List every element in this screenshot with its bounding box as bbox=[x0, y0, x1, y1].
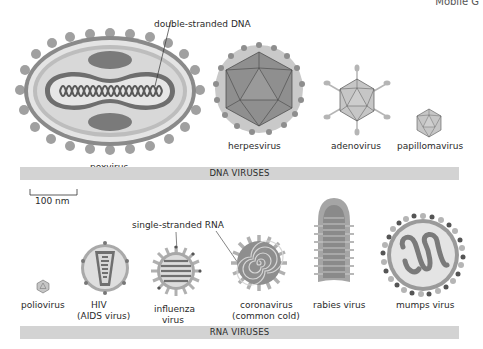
label-mumps: mumps virus bbox=[396, 300, 454, 311]
influenza-illustration bbox=[150, 245, 202, 297]
label-influenza: influenza bbox=[154, 304, 195, 315]
hiv-illustration bbox=[80, 241, 130, 295]
rna-viruses-band: RNA VIRUSES bbox=[20, 326, 459, 339]
label-influenza-subtitle: virus bbox=[162, 315, 184, 326]
poliovirus-illustration bbox=[36, 279, 50, 294]
annotation-double-stranded-dna: double-stranded DNA bbox=[154, 19, 251, 30]
label-coronavirus: coronavirus bbox=[240, 300, 293, 311]
papillomavirus-illustration bbox=[415, 108, 443, 138]
label-hiv: HIV bbox=[91, 300, 107, 311]
dna-viruses-band: DNA VIRUSES bbox=[20, 167, 459, 180]
adenovirus-illustration bbox=[322, 64, 392, 136]
label-poliovirus: poliovirus bbox=[21, 300, 65, 311]
coronavirus-illustration bbox=[229, 233, 289, 293]
rabies-illustration bbox=[314, 196, 354, 286]
label-rabies: rabies virus bbox=[313, 300, 365, 311]
label-herpesvirus: herpesvirus bbox=[228, 141, 281, 152]
label-hiv-subtitle: (AIDS virus) bbox=[77, 311, 130, 322]
page-header-fragment: Mobile G bbox=[435, 0, 479, 7]
label-papillomavirus: papillomavirus bbox=[397, 141, 463, 152]
poxvirus-illustration bbox=[15, 30, 205, 155]
label-coronavirus-subtitle: (common cold) bbox=[232, 311, 300, 322]
herpesvirus-illustration bbox=[214, 44, 304, 134]
scale-bar-icon bbox=[29, 188, 79, 196]
label-adenovirus: adenovirus bbox=[331, 141, 381, 152]
mumps-illustration bbox=[381, 213, 465, 297]
scale-bar-label: 100 nm bbox=[35, 196, 70, 207]
